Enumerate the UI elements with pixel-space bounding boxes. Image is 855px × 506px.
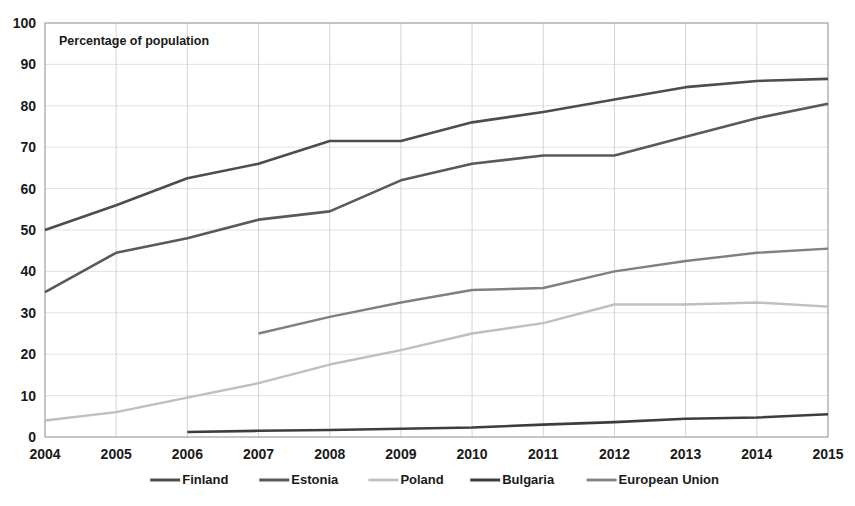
y-axis-tick-label: 60: [20, 181, 36, 197]
x-axis-tick-label: 2014: [741, 446, 772, 462]
y-axis-tick-label: 10: [20, 388, 36, 404]
line-chart: 0102030405060708090100 20042005200620072…: [0, 0, 855, 506]
legend-label: Estonia: [291, 472, 339, 487]
y-axis-tick-label: 70: [20, 139, 36, 155]
horizontal-gridlines: [45, 64, 828, 395]
y-axis-tick-label: 40: [20, 263, 36, 279]
legend-item-poland[interactable]: Poland: [368, 472, 443, 487]
chart-legend: FinlandEstoniaPolandBulgariaEuropean Uni…: [150, 472, 719, 487]
x-axis-tick-label: 2007: [243, 446, 274, 462]
y-axis-tick-label: 50: [20, 222, 36, 238]
x-axis-tick-labels: 2004200520062007200820092010201120122013…: [29, 446, 843, 462]
series-line-poland: [45, 302, 828, 420]
series-line-finland: [45, 79, 828, 230]
legend-item-finland[interactable]: Finland: [150, 472, 228, 487]
x-axis-tick-label: 2012: [599, 446, 630, 462]
x-axis-tick-label: 2010: [457, 446, 488, 462]
x-axis-tick-label: 2015: [812, 446, 843, 462]
chart-annotation-label: Percentage of population: [59, 34, 209, 48]
legend-label: Poland: [400, 472, 443, 487]
x-axis-tick-label: 2013: [670, 446, 701, 462]
legend-item-estonia[interactable]: Estonia: [259, 472, 339, 487]
y-axis-tick-label: 20: [20, 346, 36, 362]
legend-label: Bulgaria: [502, 472, 555, 487]
legend-label: European Union: [619, 472, 719, 487]
legend-item-european-union[interactable]: European Union: [587, 472, 719, 487]
x-axis-tick-label: 2006: [172, 446, 203, 462]
x-axis-tick-label: 2005: [101, 446, 132, 462]
series-line-bulgaria: [187, 414, 828, 432]
legend-item-bulgaria[interactable]: Bulgaria: [470, 472, 555, 487]
chart-canvas: 0102030405060708090100 20042005200620072…: [0, 0, 855, 506]
x-axis-tick-label: 2011: [528, 446, 559, 462]
y-axis-tick-label: 30: [20, 305, 36, 321]
y-axis-tick-label: 90: [20, 56, 36, 72]
y-axis-tick-label: 100: [13, 15, 37, 31]
y-axis-tick-label: 0: [28, 429, 36, 445]
legend-label: Finland: [182, 472, 228, 487]
y-axis-tick-label: 80: [20, 98, 36, 114]
x-axis-tick-label: 2004: [29, 446, 60, 462]
y-axis-tick-labels: 0102030405060708090100: [13, 15, 37, 445]
x-axis-tick-label: 2009: [385, 446, 416, 462]
data-series-group: [45, 79, 828, 432]
x-axis-tick-label: 2008: [314, 446, 345, 462]
